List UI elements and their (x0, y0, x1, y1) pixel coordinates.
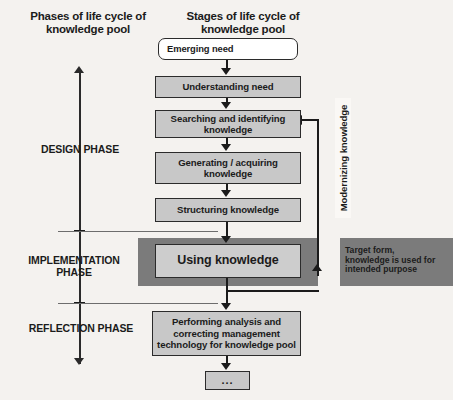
stage-node-using-knowledge[interactable]: Using knowledge (155, 244, 301, 278)
column-header-stages: Stages of life cycle of knowledge pool (163, 10, 323, 35)
stage-node-performing-analysis[interactable]: Performing analysis and correcting manag… (152, 311, 301, 356)
arrowhead-ellipsis-icon (221, 363, 231, 370)
target-form-annotation: Target form, knowledge is used for inten… (345, 246, 451, 275)
loop-segment-bottom (226, 290, 319, 292)
stage-node-continuation[interactable]: ... (205, 371, 250, 390)
phase-label-design: DESIGN PHASE (10, 143, 150, 155)
modernizing-knowledge-label: Modernizing knowledge (335, 98, 351, 218)
column-header-phases: Phases of life cycle of knowledge pool (8, 10, 168, 35)
phase-axis-arrow-down-icon (74, 358, 84, 365)
stage-node-emerging-need[interactable]: Emerging need (158, 38, 298, 60)
phase-divider-upper (58, 231, 218, 232)
arrowhead-structuring-icon (221, 190, 231, 197)
arrowhead-performing-icon (221, 303, 231, 310)
phase-divider-lower (58, 303, 218, 304)
arrowhead-using-icon (221, 236, 231, 243)
phase-label-reflection: REFLECTION PHASE (6, 322, 156, 334)
arrowhead-generating-icon (221, 144, 231, 151)
loop-arrowhead-up-icon (312, 264, 322, 271)
arrowhead-searching-icon (221, 102, 231, 109)
loop-segment-top (301, 119, 319, 121)
phase-label-implementation: IMPLEMENTATION PHASE (4, 254, 144, 278)
stage-node-searching-identifying[interactable]: Searching and identifying knowledge (155, 110, 301, 138)
phase-axis-arrow-up-icon (74, 66, 84, 73)
phase-axis-line (79, 72, 81, 364)
arrowhead-understanding-icon (221, 68, 231, 75)
flowchart-diagram: Phases of life cycle of knowledge pool S… (0, 0, 453, 400)
loop-segment-vertical (317, 119, 319, 276)
stage-node-understanding-need[interactable]: Understanding need (155, 76, 301, 98)
stage-node-structuring-knowledge[interactable]: Structuring knowledge (155, 198, 301, 222)
stage-node-generating-acquiring[interactable]: Generating / acquiring knowledge (155, 152, 301, 184)
